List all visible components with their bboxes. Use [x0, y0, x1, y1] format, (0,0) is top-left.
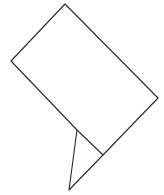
sketch-canvas — [0, 0, 164, 195]
tilted-rectangle — [11, 4, 158, 155]
